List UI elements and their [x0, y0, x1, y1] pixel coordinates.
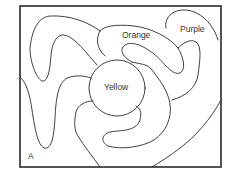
map-diagram: Orange Purple Yellow A [0, 0, 235, 177]
label-purple: Purple [180, 24, 205, 34]
label-yellow: Yellow [104, 82, 129, 92]
region-orange-inner-edge [97, 31, 105, 56]
region-bottom-right [152, 100, 221, 167]
label-orange: Orange [122, 30, 151, 40]
region-middle-right-arm [103, 62, 170, 148]
label-corner-a: A [28, 151, 34, 161]
region-top-left-arm [30, 16, 100, 81]
region-lower-left-arm [75, 101, 100, 167]
region-left-lobe [21, 76, 91, 148]
region-purple-inner [172, 41, 200, 100]
